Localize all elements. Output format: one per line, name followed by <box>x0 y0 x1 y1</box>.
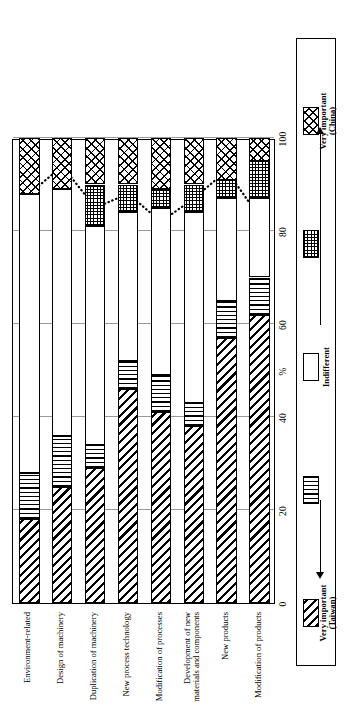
legend-swatch <box>303 230 319 258</box>
category-label: Duplication of machinery <box>89 612 99 704</box>
bar-segment <box>19 194 39 473</box>
legend-item <box>303 599 319 627</box>
stacked-bar-chart-figure: 020406080100% Environment-relatedDesign … <box>0 0 344 704</box>
category-label: Modification of products <box>254 612 264 704</box>
x-axis-tick-label: 20 <box>278 491 288 531</box>
bar-segment <box>118 212 138 361</box>
bar-segment <box>151 208 171 375</box>
bar-row <box>151 140 171 603</box>
bar-segment <box>118 389 138 603</box>
plot-area <box>12 139 275 604</box>
bar-row <box>85 140 105 603</box>
bar-segment <box>249 138 269 161</box>
bar-segment <box>216 198 236 300</box>
bar-row <box>249 140 269 603</box>
category-label: New process technology <box>122 612 132 704</box>
bar-segment <box>52 487 72 603</box>
legend-item <box>303 476 319 504</box>
bar-segment <box>85 468 105 603</box>
legend-swatch <box>303 599 319 627</box>
bar-segment <box>118 361 138 389</box>
bar-segment <box>85 226 105 445</box>
bar-segment <box>216 338 236 603</box>
category-label: Modification of processes <box>155 612 165 704</box>
bar-row <box>216 140 236 603</box>
bar-segment <box>151 375 171 412</box>
bar-segment <box>249 198 269 277</box>
bar-segment <box>249 315 269 603</box>
legend-direction-arrow <box>320 133 321 325</box>
bar-segment <box>151 412 171 603</box>
legend-arrow-head <box>316 127 324 134</box>
bar-segment <box>52 138 72 189</box>
bar-segment <box>184 185 204 213</box>
legend-direction-arrow <box>320 500 321 573</box>
bar-row <box>52 140 72 603</box>
bar-segment <box>85 138 105 185</box>
legend-label: Indifferent <box>322 312 331 422</box>
bar-segment <box>249 278 269 315</box>
figure-rotation-wrapper: 020406080100% Environment-relatedDesign … <box>0 0 344 704</box>
category-label: Design of machinery <box>56 612 66 704</box>
bar-segment <box>118 185 138 213</box>
legend-swatch <box>303 476 319 504</box>
bar-segment <box>249 161 269 198</box>
bar-segment <box>52 189 72 435</box>
legend-item <box>303 353 319 381</box>
bar-segment <box>216 301 236 338</box>
bar-segment <box>19 519 39 603</box>
bar-row <box>19 140 39 603</box>
x-axis-tick-label: 80 <box>278 212 288 252</box>
category-label: New products <box>221 612 231 704</box>
bar-segment <box>85 445 105 468</box>
x-axis-tick-label: 60 <box>278 305 288 345</box>
x-axis-tick-label: 100 <box>278 119 288 159</box>
bar-segment <box>19 138 39 194</box>
bar-row <box>118 140 138 603</box>
bar-segment <box>52 436 72 487</box>
x-axis-tick-label: 40 <box>278 398 288 438</box>
category-label: Environment-related <box>23 612 33 704</box>
bar-segment <box>19 473 39 520</box>
bar-segment <box>216 138 236 180</box>
bar-row <box>184 140 204 603</box>
bar-segment <box>216 180 236 199</box>
bar-segment <box>184 403 204 426</box>
bar-segment <box>151 189 171 208</box>
legend-swatch <box>303 353 319 381</box>
bar-segment <box>184 426 204 603</box>
category-label: Development of new materials and compone… <box>183 612 202 704</box>
bar-segment <box>151 138 171 189</box>
bar-segment <box>184 138 204 185</box>
legend-arrow-head <box>316 572 324 579</box>
legend-item <box>303 230 319 258</box>
legend-label: Very important (China) <box>319 66 338 176</box>
x-axis-unit-label: % <box>278 357 288 387</box>
chart-legend: Very important (Taiwan)IndifferentVery i… <box>296 38 336 666</box>
x-axis-tick-label: 0 <box>278 584 288 624</box>
bar-segment <box>85 185 105 227</box>
bar-segment <box>118 138 138 185</box>
bar-segment <box>184 212 204 403</box>
